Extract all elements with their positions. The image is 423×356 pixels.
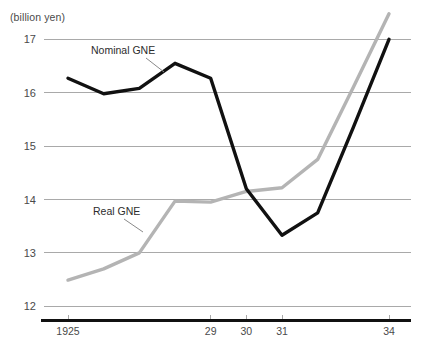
gne-line-chart: (billion yen) Nominal GNE Real GNE 17161… bbox=[0, 0, 423, 356]
plot-area bbox=[0, 0, 423, 356]
y-axis-tick-label: 17 bbox=[12, 33, 36, 45]
y-axis-tick-label: 15 bbox=[12, 140, 36, 152]
x-axis-tick-label: 30 bbox=[240, 325, 252, 337]
x-axis-tick-label: 34 bbox=[383, 325, 395, 337]
series-label-real: Real GNE bbox=[93, 205, 140, 217]
x-axis-tick-label: 1925 bbox=[56, 325, 79, 337]
x-axis-tick-label: 31 bbox=[276, 325, 288, 337]
y-axis-tick-label: 13 bbox=[12, 247, 36, 259]
x-axis-tick-label: 29 bbox=[205, 325, 217, 337]
y-axis-tick-label: 12 bbox=[12, 300, 36, 312]
series-label-nominal: Nominal GNE bbox=[91, 44, 155, 56]
leader-line-real bbox=[124, 219, 143, 232]
y-axis-tick-label: 16 bbox=[12, 87, 36, 99]
leader-line-nominal bbox=[146, 58, 164, 72]
y-axis-tick-label: 14 bbox=[12, 194, 36, 206]
